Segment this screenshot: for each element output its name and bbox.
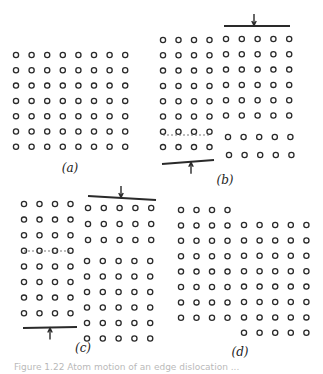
atom-circle (194, 207, 199, 212)
atom-circle (132, 289, 137, 294)
atom-circle (45, 144, 50, 149)
atom-circle (304, 222, 309, 227)
atom-circle (148, 289, 153, 294)
atom-circle (37, 217, 42, 222)
atom-circle (68, 233, 73, 238)
atom-circle (273, 152, 278, 157)
atom-circle (194, 238, 199, 243)
atom-circle (194, 254, 199, 259)
atom-circle (191, 68, 196, 73)
atom-circle (207, 68, 212, 73)
atom-circle (288, 222, 293, 227)
atom-circle (176, 99, 181, 104)
atom-circle (29, 144, 34, 149)
atom-circle (132, 274, 137, 279)
arrow-down-icon (252, 14, 256, 26)
atom-circle (288, 238, 293, 243)
atom-circle (13, 98, 18, 103)
atom-circle (288, 284, 293, 289)
atom-circle (225, 254, 230, 259)
atom-circle (117, 221, 122, 226)
atom-circle (271, 82, 276, 87)
atom-circle (239, 36, 244, 41)
atom-circle (241, 284, 246, 289)
atom-circle (209, 238, 214, 243)
atom-circle (123, 144, 128, 149)
atom-circle (68, 279, 73, 284)
atom-circle (76, 129, 81, 134)
atom-circle (107, 114, 112, 119)
atom-circle (271, 52, 276, 57)
atom-circle (239, 67, 244, 72)
atom-circle (21, 279, 26, 284)
atom-circle (257, 284, 262, 289)
atom-circle (29, 98, 34, 103)
atom-circle (101, 237, 106, 242)
atom-circle (241, 315, 246, 320)
atom-circle (100, 258, 105, 263)
atom-circle (176, 145, 181, 150)
atom-circle (207, 145, 212, 150)
atom-circle (160, 37, 165, 42)
atom-circle (209, 300, 214, 305)
atom-circle (304, 253, 309, 258)
atom-circle (271, 113, 276, 118)
atom-circle (287, 52, 292, 57)
atom-circle (60, 83, 65, 88)
atom-circle (76, 83, 81, 88)
atom-circle (60, 144, 65, 149)
atom-circle (160, 68, 165, 73)
atom-circle (194, 284, 199, 289)
atom-circle (304, 284, 309, 289)
atom-circle (13, 129, 18, 134)
atom-circle (85, 221, 90, 226)
atom-circle (287, 36, 292, 41)
atom-circle (178, 300, 183, 305)
atom-circle (288, 269, 293, 274)
atom-circle (304, 330, 309, 335)
atom-circle (258, 152, 263, 157)
atom-circle (68, 295, 73, 300)
atom-circle (13, 52, 18, 57)
atom-circle (37, 295, 42, 300)
atom-circle (29, 68, 34, 73)
atom-circle (272, 134, 277, 139)
atom-circle (257, 330, 262, 335)
atom-circle (178, 284, 183, 289)
atom-circle (76, 144, 81, 149)
atom-circle (52, 233, 57, 238)
atom-circle (209, 254, 214, 259)
atom-circle (52, 217, 57, 222)
atom-circle (132, 320, 137, 325)
atom-circle (149, 221, 154, 226)
atom-circle (239, 82, 244, 87)
atom-circle (273, 253, 278, 258)
atom-circle (123, 129, 128, 134)
atom-circle (52, 311, 57, 316)
atom-circle (21, 201, 26, 206)
atom-circle (225, 207, 230, 212)
atom-circle (288, 253, 293, 258)
atom-circle (21, 217, 26, 222)
atom-circle (107, 129, 112, 134)
atom-circle (176, 37, 181, 42)
atom-circle (241, 238, 246, 243)
atom-circle (209, 223, 214, 228)
atom-circle (191, 145, 196, 150)
atom-circle (257, 253, 262, 258)
atom-circle (29, 129, 34, 134)
atom-circle (223, 36, 228, 41)
atom-circle (178, 269, 183, 274)
atom-circle (76, 98, 81, 103)
atom-circle (178, 207, 183, 212)
atom-circle (287, 67, 292, 72)
atom-circle (289, 152, 294, 157)
atom-circle (257, 222, 262, 227)
atom-circle (273, 269, 278, 274)
atom-circle (207, 129, 212, 134)
panel-label-d: (d) (231, 345, 248, 359)
atom-circle (226, 152, 231, 157)
atom-circle (288, 134, 293, 139)
atom-circle (116, 274, 121, 279)
atom-circle (241, 253, 246, 258)
